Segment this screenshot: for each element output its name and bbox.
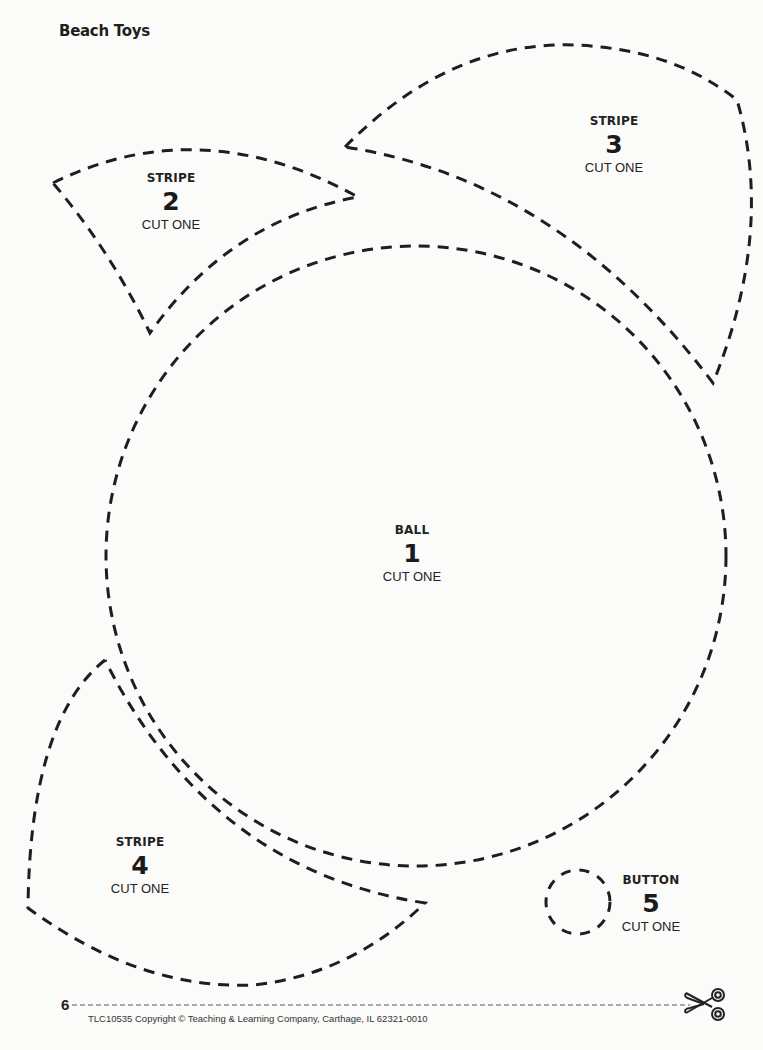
piece-kind: STRIPE	[80, 836, 200, 848]
stripe-3-cut-line	[345, 45, 751, 383]
piece-number: 1	[352, 541, 472, 566]
button-label: BUTTON 5 CUT ONE	[591, 874, 711, 933]
piece-instruction: CUT ONE	[111, 218, 231, 231]
stripe-4-cut-line	[28, 660, 425, 985]
stripe-4-label: STRIPE 4 CUT ONE	[80, 836, 200, 895]
piece-instruction: CUT ONE	[80, 882, 200, 895]
copyright-notice: TLC10535 Copyright © Teaching & Learning…	[88, 1013, 428, 1024]
piece-instruction: CUT ONE	[352, 570, 472, 583]
stripe-2-label: STRIPE 2 CUT ONE	[111, 172, 231, 231]
piece-kind: STRIPE	[111, 172, 231, 184]
piece-kind: BUTTON	[591, 874, 711, 886]
piece-instruction: CUT ONE	[591, 920, 711, 933]
stripe-3-label: STRIPE 3 CUT ONE	[554, 115, 674, 174]
piece-number: 4	[80, 853, 200, 878]
piece-kind: STRIPE	[554, 115, 674, 127]
piece-instruction: CUT ONE	[554, 161, 674, 174]
page-number: 6	[61, 996, 69, 1013]
piece-number: 2	[111, 189, 231, 214]
scissors-icon	[685, 989, 724, 1020]
ball-label: BALL 1 CUT ONE	[352, 524, 472, 583]
piece-number: 5	[591, 891, 711, 916]
piece-number: 3	[554, 132, 674, 157]
piece-kind: BALL	[352, 524, 472, 536]
